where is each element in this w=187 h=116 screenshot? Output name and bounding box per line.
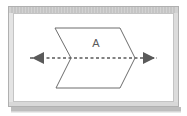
- frame-bottom-bevel: [9, 102, 178, 106]
- frame-shadow-bar: [11, 107, 181, 112]
- frame-right-bevel: [174, 13, 178, 102]
- frame-left-bevel: [9, 13, 13, 102]
- frame-shadow-bar-edge: [11, 111, 181, 113]
- frame-top-band: [9, 7, 178, 13]
- chevron-block-label: A: [92, 37, 100, 49]
- figure-root: A: [0, 0, 187, 116]
- diagram-canvas: A: [0, 0, 187, 116]
